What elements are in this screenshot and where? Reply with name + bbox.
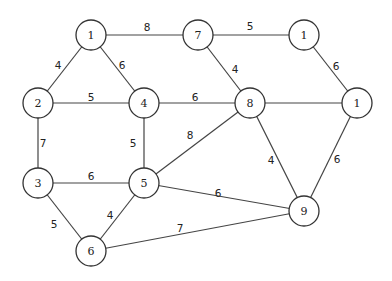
edge-weight-label: 8 (187, 129, 194, 141)
graph-node-n7: 7 (183, 20, 213, 50)
edge-weight-label: 7 (40, 137, 47, 149)
graph-node-n1b: 1 (289, 20, 319, 50)
edge-n8-n5 (144, 103, 250, 183)
edge-n1c-n9 (304, 103, 357, 211)
node-label: 6 (88, 245, 95, 258)
graph-node-n2: 2 (23, 88, 53, 118)
edge-weight-label: 6 (192, 91, 199, 103)
node-label: 2 (35, 97, 42, 110)
edge-weight-label: 5 (247, 20, 254, 32)
graph-node-n5: 5 (129, 168, 159, 198)
node-label: 3 (35, 177, 42, 190)
edge-n6-n9 (91, 211, 304, 251)
edge-weight-label: 8 (144, 21, 151, 33)
edge-weight-label: 4 (107, 209, 114, 221)
node-label: 5 (141, 177, 148, 190)
graph-node-n4: 4 (129, 88, 159, 118)
node-label: 9 (301, 205, 308, 218)
edge-weight-label: 6 (215, 187, 222, 199)
edge-weight-label: 4 (55, 59, 62, 71)
edge-weight-label: 5 (88, 91, 95, 103)
graph-node-n3: 3 (23, 168, 53, 198)
graph-diagram: 17124813596 854646567584666547 (0, 0, 392, 281)
edge-weight-label: 5 (130, 137, 137, 149)
edge-weight-label: 7 (177, 222, 184, 234)
edge-n8-n9 (250, 103, 304, 211)
edge-weight-label: 6 (119, 59, 126, 71)
node-label: 1 (88, 29, 95, 42)
edge-weight-label: 5 (51, 218, 58, 230)
graph-node-n8: 8 (235, 88, 265, 118)
node-label: 1 (354, 97, 361, 110)
edge-weight-label: 4 (232, 63, 239, 75)
node-label: 8 (247, 97, 254, 110)
graph-node-n1c: 1 (342, 88, 372, 118)
node-label: 1 (301, 29, 308, 42)
graph-node-n1a: 1 (76, 20, 106, 50)
node-label: 4 (141, 97, 148, 110)
edge-weight-label: 6 (334, 153, 341, 165)
edge-weight-label: 4 (268, 154, 275, 166)
graph-node-n6: 6 (76, 236, 106, 266)
node-label: 7 (195, 29, 202, 42)
graph-node-n9: 9 (289, 196, 319, 226)
edge-weight-label: 6 (88, 170, 95, 182)
edge-n5-n9 (144, 183, 304, 211)
edge-weight-label: 6 (333, 60, 340, 72)
